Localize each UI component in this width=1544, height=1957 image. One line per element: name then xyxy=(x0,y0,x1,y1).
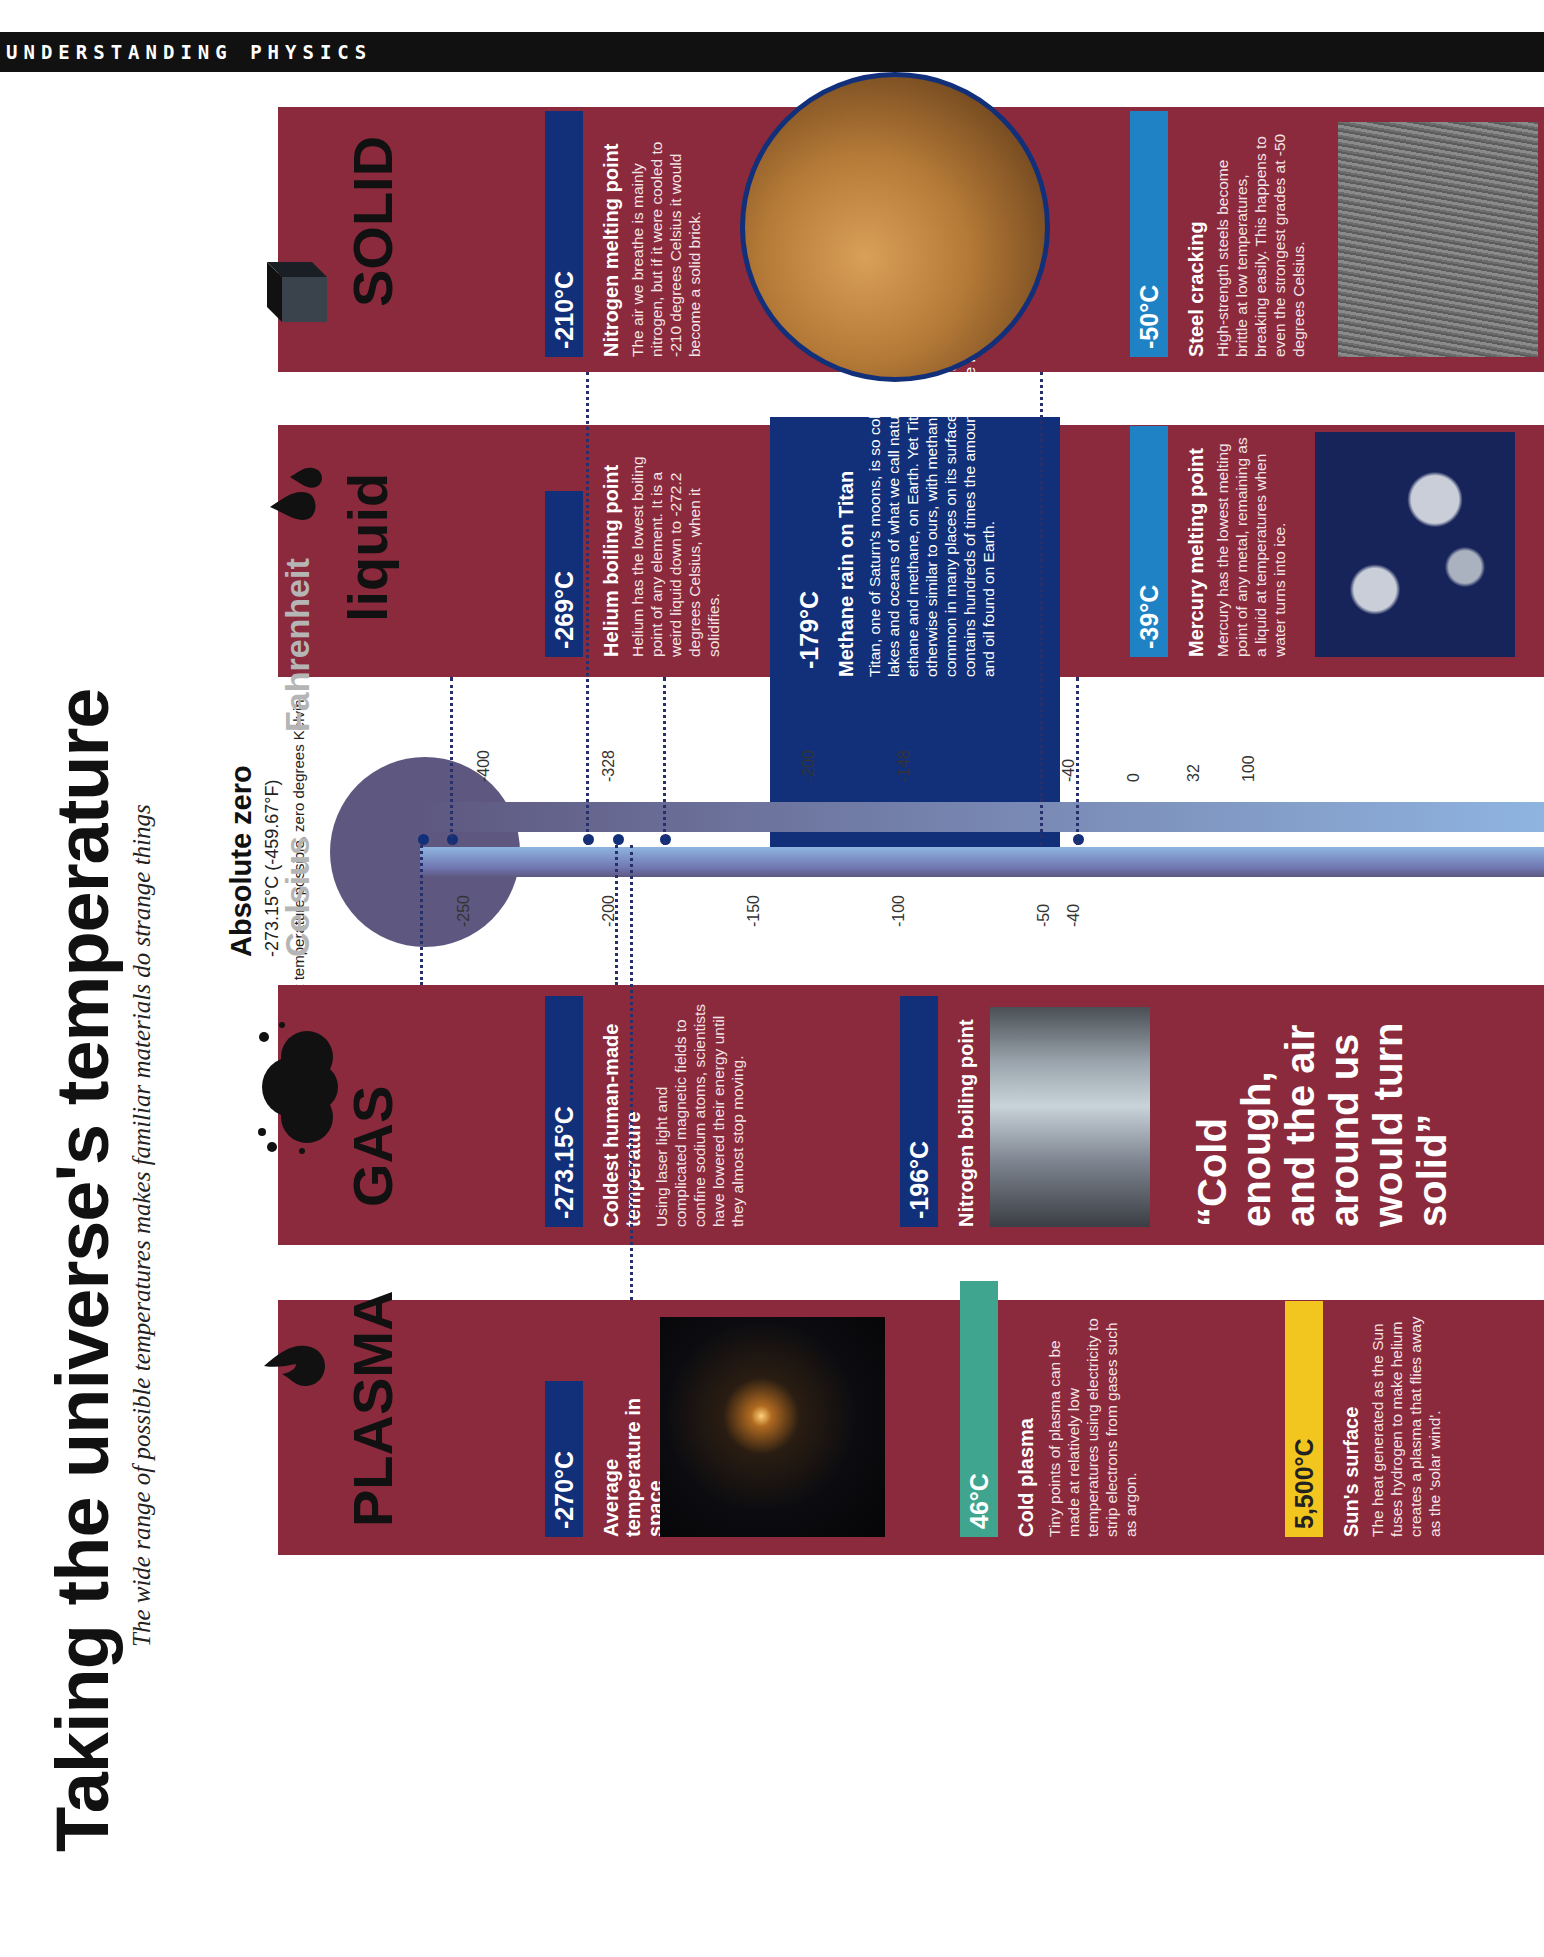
fahrenheit-label: Fahrenheit xyxy=(278,558,317,732)
droplets-icon xyxy=(260,457,330,527)
leader-line xyxy=(630,845,633,1300)
titan-photo xyxy=(740,72,1050,382)
celsius-tick: -40 xyxy=(1065,904,1083,927)
fahrenheit-tick: 32 xyxy=(1185,764,1203,782)
leader-line xyxy=(450,677,453,845)
fahrenheit-tick: -328 xyxy=(600,750,618,782)
sun-title: Sun's surface xyxy=(1340,1317,1362,1537)
cold-plasma-temp-tag: 46°C xyxy=(960,1281,998,1537)
celsius-label: Celsius xyxy=(278,836,317,957)
cloud-icon xyxy=(252,1017,342,1157)
leader-line xyxy=(663,677,666,845)
pull-quote: “Cold enough, and the air around us woul… xyxy=(1190,997,1454,1227)
cube-icon xyxy=(262,257,332,327)
marker-nitrogen-boil xyxy=(613,834,624,845)
celsius-tick: -50 xyxy=(1035,904,1053,927)
nitrogen-boil-title: Nitrogen boiling point xyxy=(955,987,977,1227)
helium-body: Helium has the lowest boiling point of a… xyxy=(628,432,723,657)
rotated-page: Taking the universe's temperature The wi… xyxy=(0,77,1544,1957)
coldest-body: Using laser light and complicated magnet… xyxy=(652,1002,747,1227)
sun-body: The heat generated as the Sun fuses hydr… xyxy=(1368,1312,1444,1537)
marker-absolute-zero xyxy=(418,834,429,845)
mercury-droplets-photo xyxy=(1315,432,1515,657)
absolute-zero-title: Absolute zero xyxy=(225,765,258,957)
helium-title: Helium boiling point xyxy=(600,432,622,657)
space-title: Average temperature in space xyxy=(600,1377,666,1537)
leader-line xyxy=(420,845,423,985)
flame-icon xyxy=(262,1340,327,1392)
helium-temp-tag: -269°C xyxy=(545,491,583,657)
coldest-title: Coldest human-made temperature xyxy=(600,1012,644,1227)
celsius-tick: -150 xyxy=(745,895,763,927)
nitrogen-melt-body: The air we breathe is mainly nitrogen, b… xyxy=(628,127,704,357)
sun-temp-tag: 5,500°C xyxy=(1285,1301,1323,1537)
space-temp-tag: -270°C xyxy=(545,1381,583,1537)
section-label: UNDERSTANDING PHYSICS xyxy=(6,41,372,63)
fahrenheit-tick: -400 xyxy=(475,750,493,782)
celsius-tick: -100 xyxy=(890,895,908,927)
nitrogen-melt-title: Nitrogen melting point xyxy=(600,127,622,357)
nitrogen-boil-temp-tag: -196°C xyxy=(900,996,938,1227)
fahrenheit-tick: -148 xyxy=(895,750,913,782)
page-subtitle: The wide range of possible temperatures … xyxy=(128,804,156,1647)
gas-label: GAS xyxy=(340,1086,405,1207)
fahrenheit-tick: 0 xyxy=(1125,773,1143,782)
section-header-bar: UNDERSTANDING PHYSICS xyxy=(0,32,1544,72)
titan-title: Methane rain on Titan xyxy=(835,417,857,677)
mercury-temp-tag: -39°C xyxy=(1130,426,1168,657)
leader-line xyxy=(1076,677,1079,845)
fahrenheit-tick: 100 xyxy=(1240,755,1258,782)
coldest-temp-tag: -273.15°C xyxy=(545,996,583,1227)
steel-body: High-strength steels become brittle at l… xyxy=(1213,127,1308,357)
leader-line xyxy=(615,845,618,985)
leader-line xyxy=(1040,372,1043,845)
liquid-nitrogen-photo xyxy=(990,1007,1150,1227)
steel-title: Steel cracking xyxy=(1185,127,1207,357)
plasma-label: PLASMA xyxy=(340,1291,405,1527)
nitrogen-melt-temp-tag: -210°C xyxy=(545,111,583,357)
titan-temp-tag: -179°C xyxy=(790,541,828,677)
cold-plasma-body: Tiny points of plasma can be made at rel… xyxy=(1045,1312,1140,1537)
fahrenheit-tick: -200 xyxy=(800,750,818,782)
cold-plasma-title: Cold plasma xyxy=(1015,1317,1037,1537)
thermometer-tube-celsius xyxy=(420,847,1544,877)
page-title: Taking the universe's temperature xyxy=(40,688,125,1852)
celsius-tick: -250 xyxy=(455,895,473,927)
galaxy-photo xyxy=(660,1317,885,1537)
steel-temp-tag: -50°C xyxy=(1130,111,1168,357)
liquid-label: liquid xyxy=(335,473,400,622)
leader-line xyxy=(586,372,589,845)
solid-label: SOLID xyxy=(340,136,405,307)
steel-surface-photo xyxy=(1338,122,1538,357)
mercury-title: Mercury melting point xyxy=(1185,432,1207,657)
mercury-body: Mercury has the lowest melting point of … xyxy=(1213,432,1289,657)
